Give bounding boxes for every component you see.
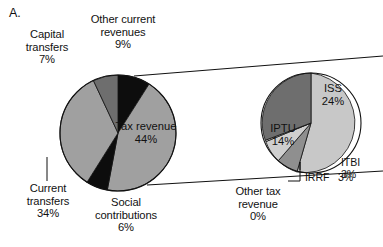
- label-social-contributions-value: 6%: [77, 221, 175, 234]
- label-iss-line1: ISS: [311, 82, 355, 95]
- label-iss-value: 24%: [311, 95, 355, 108]
- label-tax-revenue: Tax revenue 44%: [103, 120, 189, 145]
- label-current-transfers-line2: transfers: [9, 195, 87, 208]
- pie-chart-figure: A. Capital transfers 7% Other current re…: [0, 0, 383, 247]
- label-irrf-line1: IRRF: [305, 172, 341, 184]
- label-tax-revenue-value: 44%: [103, 133, 189, 146]
- label-iss: ISS 24%: [311, 82, 355, 107]
- label-capital-transfers-value: 7%: [10, 53, 84, 66]
- label-social-contributions: Social contributions 6%: [77, 196, 175, 234]
- label-iptu-line1: IPTU: [259, 122, 307, 135]
- label-irrf-value: 3%: [338, 172, 360, 184]
- label-tax-revenue-line1: Tax revenue: [103, 120, 189, 133]
- label-other-tax-revenue-value: 0%: [225, 210, 291, 223]
- label-other-tax-revenue-line1: Other tax: [225, 185, 291, 198]
- label-current-transfers: Current transfers 34%: [9, 182, 87, 220]
- label-other-current-revenues: Other current revenues 9%: [73, 13, 173, 51]
- label-irrf: IRRF: [305, 172, 341, 184]
- label-social-contributions-line2: contributions: [77, 209, 175, 222]
- label-current-transfers-line1: Current: [9, 182, 87, 195]
- label-other-current-revenues-line1: Other current: [73, 13, 173, 26]
- label-irrf-value-wrap: 3%: [338, 172, 360, 184]
- label-other-tax-revenue: Other tax revenue 0%: [225, 185, 291, 223]
- label-other-current-revenues-value: 9%: [73, 38, 173, 51]
- label-iptu: IPTU 14%: [259, 122, 307, 147]
- label-current-transfers-value: 34%: [9, 207, 87, 220]
- label-other-tax-revenue-line2: revenue: [225, 198, 291, 211]
- label-social-contributions-line1: Social: [77, 196, 175, 209]
- panel-letter: A.: [9, 6, 21, 20]
- label-iptu-value: 14%: [259, 135, 307, 148]
- label-other-current-revenues-line2: revenues: [73, 26, 173, 39]
